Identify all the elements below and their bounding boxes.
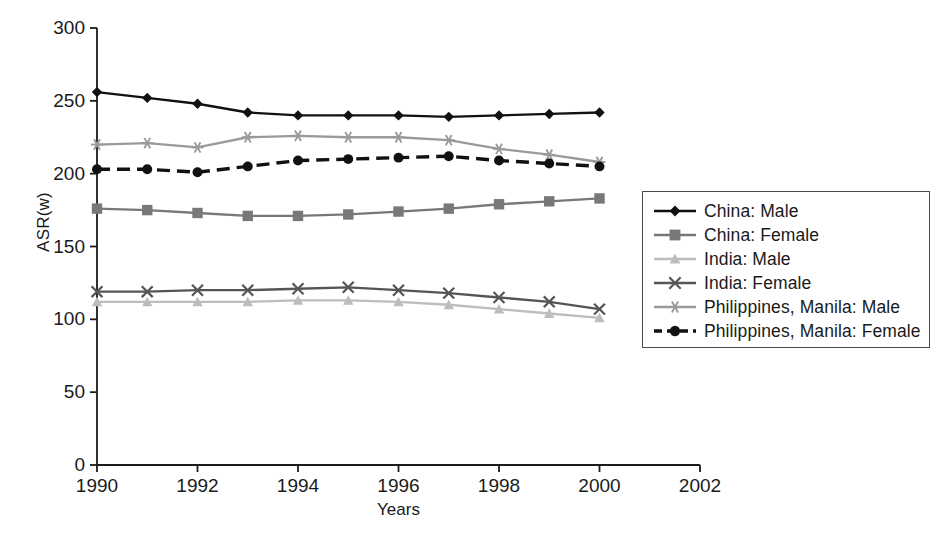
legend-marker-icon — [652, 248, 698, 270]
data-point — [444, 203, 454, 213]
data-point — [444, 112, 454, 122]
y-tick-label: 200 — [23, 164, 85, 183]
legend-item[interactable]: India: Male — [643, 247, 929, 271]
data-point — [443, 135, 455, 145]
data-point — [594, 107, 604, 117]
legend: China: MaleChina: FemaleIndia: MaleIndia… — [642, 191, 930, 348]
axes — [90, 28, 700, 472]
data-point — [444, 151, 454, 161]
data-point — [393, 110, 403, 120]
x-tick-label: 1994 — [263, 476, 333, 495]
x-tick-label: 2002 — [665, 476, 735, 495]
data-point — [293, 156, 303, 166]
legend-marker-icon — [652, 200, 698, 222]
x-tick-label: 1992 — [163, 476, 233, 495]
data-point — [393, 206, 403, 216]
x-tick-label: 2000 — [565, 476, 635, 495]
legend-label: China: Female — [704, 225, 819, 246]
data-point — [594, 193, 604, 203]
y-tick-label: 150 — [23, 237, 85, 256]
x-tick-label: 1990 — [62, 476, 132, 495]
data-point — [141, 138, 153, 148]
data-point — [342, 132, 354, 142]
series-line — [92, 151, 604, 177]
data-point — [92, 164, 102, 174]
data-point — [494, 110, 504, 120]
data-point — [343, 110, 353, 120]
x-tick-label: 1998 — [464, 476, 534, 495]
data-point — [193, 167, 203, 177]
data-point — [192, 208, 202, 218]
legend-item[interactable]: Philippines, Manila: Female — [643, 319, 929, 343]
data-point — [494, 156, 504, 166]
legend-item[interactable]: India: Female — [643, 271, 929, 295]
data-point — [544, 109, 554, 119]
data-point — [343, 154, 353, 164]
data-point — [243, 161, 253, 171]
series-line — [92, 87, 605, 122]
legend-item[interactable]: China: Female — [643, 223, 929, 247]
data-point — [343, 209, 353, 219]
legend-marker-icon — [652, 320, 698, 342]
y-tick-label: 250 — [23, 91, 85, 110]
data-point — [394, 153, 404, 163]
data-point — [494, 199, 504, 209]
legend-label: India: Male — [704, 249, 791, 270]
data-point — [293, 110, 303, 120]
data-point — [242, 132, 254, 142]
line-chart: ASR(w) Years 050100150200250300 19901992… — [0, 0, 950, 540]
data-point — [192, 99, 202, 109]
series-line — [92, 193, 605, 221]
legend-marker-icon — [652, 224, 698, 246]
data-point — [543, 150, 555, 160]
legend-label: India: Female — [704, 273, 811, 294]
legend-marker-icon — [652, 272, 698, 294]
data-point — [142, 205, 152, 215]
y-tick-label: 0 — [23, 455, 85, 474]
data-point — [243, 107, 253, 117]
data-point — [142, 93, 152, 103]
data-point — [544, 196, 554, 206]
data-point — [595, 161, 605, 171]
data-point — [192, 142, 204, 152]
data-point — [292, 131, 304, 141]
legend-label: China: Male — [704, 201, 798, 222]
y-tick-label: 100 — [23, 309, 85, 328]
data-point — [544, 159, 554, 169]
data-point — [293, 211, 303, 221]
legend-label: Philippines, Manila: Male — [704, 297, 900, 318]
data-point — [243, 211, 253, 221]
legend-marker-icon — [652, 296, 698, 318]
legend-item[interactable]: China: Male — [643, 199, 929, 223]
x-tick-label: 1996 — [364, 476, 434, 495]
data-point — [493, 144, 505, 154]
data-point — [393, 132, 405, 142]
data-point — [142, 164, 152, 174]
data-point — [92, 203, 102, 213]
y-tick-label: 300 — [23, 18, 85, 37]
data-point — [92, 87, 102, 97]
x-axis-title: Years — [97, 500, 700, 520]
y-tick-label: 50 — [23, 382, 85, 401]
legend-item[interactable]: Philippines, Manila: Male — [643, 295, 929, 319]
legend-label: Philippines, Manila: Female — [704, 321, 921, 342]
